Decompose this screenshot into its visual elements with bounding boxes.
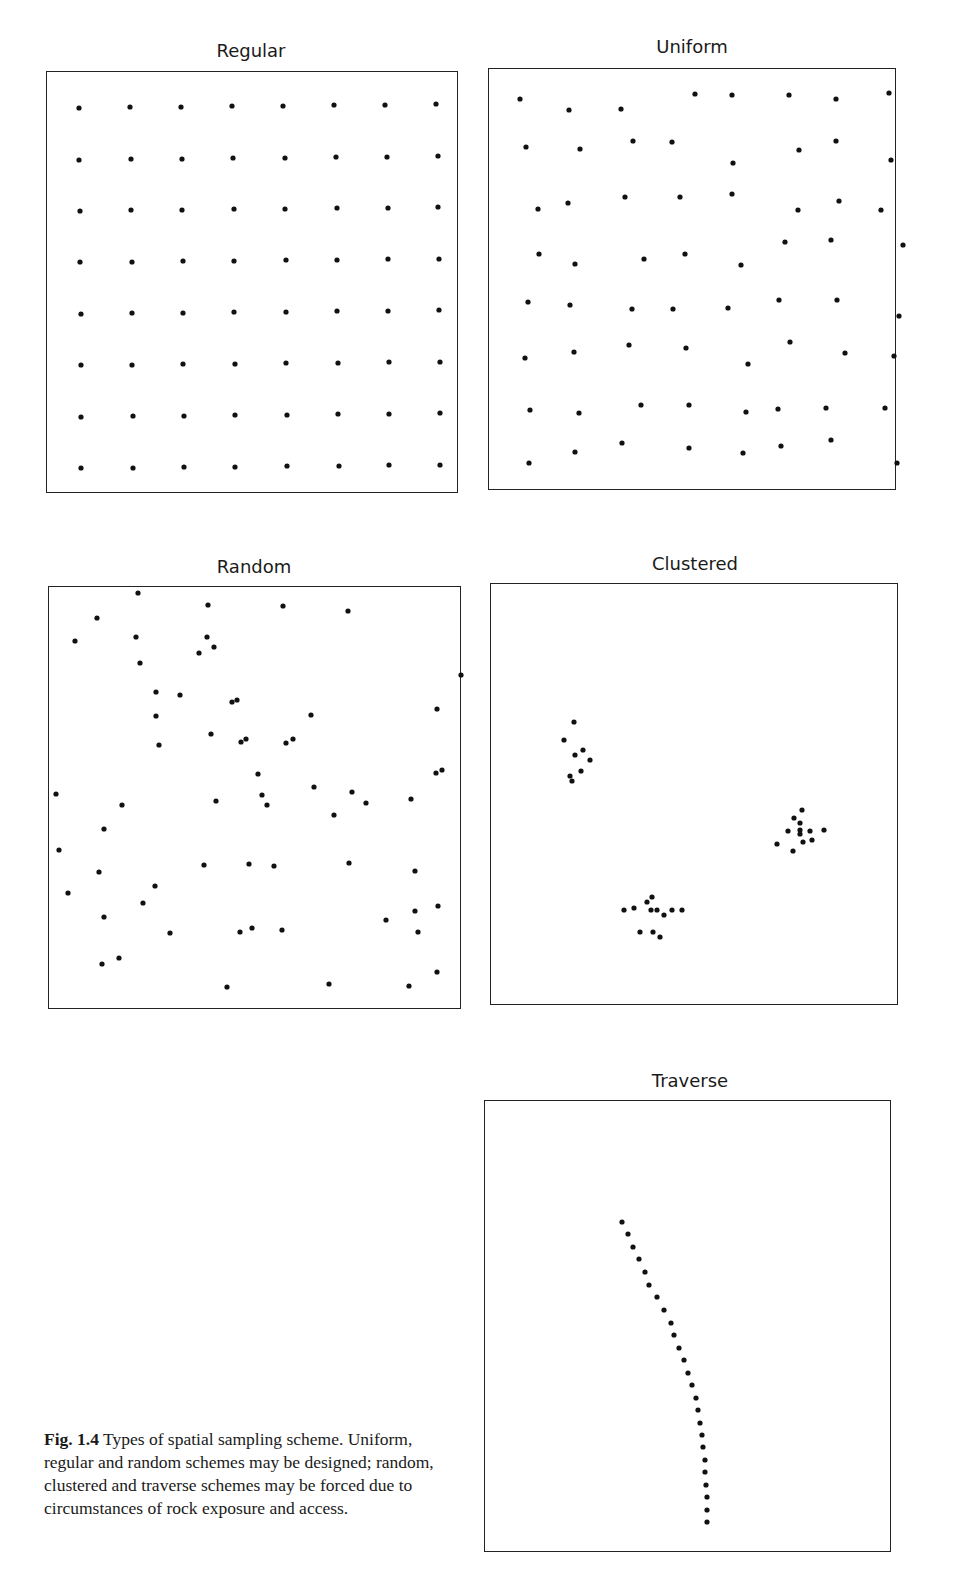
sample-point (823, 405, 828, 410)
sample-point (386, 359, 391, 364)
sample-point (385, 205, 390, 210)
sample-point (578, 768, 583, 773)
sample-point (346, 860, 351, 865)
sample-point (76, 105, 81, 110)
sample-point (386, 462, 391, 467)
sample-point (181, 413, 186, 418)
sample-point (886, 90, 891, 95)
sample-point (335, 360, 340, 365)
sample-point (669, 139, 674, 144)
sample-point (900, 242, 905, 247)
sample-point (231, 258, 236, 263)
sample-point (178, 104, 183, 109)
sample-point (129, 259, 134, 264)
sample-point (119, 802, 124, 807)
sample-point (535, 206, 540, 211)
sample-point (137, 660, 142, 665)
sample-point (834, 297, 839, 302)
sample-point (704, 1519, 709, 1524)
sample-point (167, 930, 172, 935)
sample-point (130, 465, 135, 470)
sample-point (587, 757, 592, 762)
sample-point (435, 153, 440, 158)
sample-point (284, 463, 289, 468)
sample-point (525, 299, 530, 304)
sample-point (230, 155, 235, 160)
sample-point (434, 706, 439, 711)
sample-point (697, 1420, 702, 1425)
sample-point (72, 638, 77, 643)
sample-point (264, 802, 269, 807)
sample-point (654, 1294, 659, 1299)
sample-point (232, 464, 237, 469)
sample-point (246, 861, 251, 866)
sample-point (283, 360, 288, 365)
sample-point (196, 650, 201, 655)
sample-point (828, 237, 833, 242)
sample-point (237, 929, 242, 934)
sample-point (650, 929, 655, 934)
sample-point (682, 251, 687, 256)
sample-point (654, 907, 659, 912)
sample-point (842, 350, 847, 355)
sample-point (232, 361, 237, 366)
points-clustered (561, 719, 826, 939)
sample-point (646, 1282, 651, 1287)
sample-point (745, 361, 750, 366)
sample-point (284, 412, 289, 417)
sample-point (790, 848, 795, 853)
sample-point (383, 917, 388, 922)
sample-point (283, 740, 288, 745)
sample-point (571, 719, 576, 724)
sample-point (661, 912, 666, 917)
sample-point (730, 160, 735, 165)
sample-point (703, 1482, 708, 1487)
sample-point (129, 362, 134, 367)
sample-point (53, 791, 58, 796)
sample-point (177, 692, 182, 697)
sample-point (437, 410, 442, 415)
sample-point (695, 1407, 700, 1412)
sample-point (566, 107, 571, 112)
sample-point (775, 406, 780, 411)
sample-point (689, 1382, 694, 1387)
sample-point (385, 256, 390, 261)
sample-point (290, 736, 295, 741)
sample-point (637, 929, 642, 934)
points-traverse (619, 1219, 709, 1524)
sample-point (435, 903, 440, 908)
sample-point (211, 644, 216, 649)
sample-point (415, 929, 420, 934)
sample-point (238, 739, 243, 744)
sample-point (702, 1469, 707, 1474)
sample-point (311, 784, 316, 789)
sample-point (725, 305, 730, 310)
sample-point (572, 261, 577, 266)
sample-point (576, 410, 581, 415)
sample-point (572, 752, 577, 757)
sample-point (433, 101, 438, 106)
sample-point (626, 342, 631, 347)
sample-point (437, 359, 442, 364)
sample-point (807, 828, 812, 833)
sample-point (280, 103, 285, 108)
sample-point (692, 91, 697, 96)
points-random (53, 590, 463, 989)
sample-point (384, 154, 389, 159)
sample-point (776, 297, 781, 302)
sample-point (526, 460, 531, 465)
sample-point (116, 955, 121, 960)
sample-point (630, 1244, 635, 1249)
sample-point (232, 412, 237, 417)
sample-point (738, 262, 743, 267)
sample-point (279, 927, 284, 932)
sample-point (135, 590, 140, 595)
sample-point (618, 106, 623, 111)
sample-point (224, 984, 229, 989)
sample-point (778, 443, 783, 448)
sample-point (523, 144, 528, 149)
sample-point (522, 355, 527, 360)
sample-point (743, 409, 748, 414)
sample-point (785, 828, 790, 833)
sample-point (577, 146, 582, 151)
